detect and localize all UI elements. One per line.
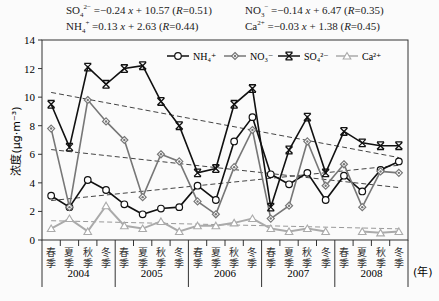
legend-label: SO₄²⁻ <box>304 51 329 62</box>
year-label: 2004 <box>68 267 91 279</box>
diamond-dot <box>398 172 400 174</box>
year-label: 2008 <box>360 267 383 279</box>
diamond-dot <box>196 200 198 202</box>
diamond-dot <box>288 205 290 207</box>
season-label-char: 夏 <box>138 247 148 258</box>
season-label-char: 秋 <box>83 246 93 258</box>
y-tick-label: 8 <box>30 120 36 132</box>
x-axis: 春季夏季秋季冬季春季夏季秋季冬季春季夏季秋季冬季春季夏季秋季冬季春季夏季秋季冬季… <box>42 240 408 287</box>
season-label-char: 春 <box>119 247 129 258</box>
season-label-char: 季 <box>339 258 349 269</box>
diamond-dot <box>270 217 272 219</box>
circle-marker <box>139 211 146 218</box>
circle-marker <box>194 182 201 189</box>
y-tick-label: 0 <box>30 234 36 246</box>
circle-marker <box>341 172 348 179</box>
circle-marker <box>231 138 238 145</box>
diamond-dot <box>50 127 52 129</box>
diamond-dot <box>306 140 308 142</box>
circle-marker <box>267 171 274 178</box>
x-marker <box>157 98 164 106</box>
legend: NH₄⁺NO₃⁻SO₄²⁻Ca²⁺ <box>167 51 381 62</box>
season-label-char: 冬 <box>174 246 184 258</box>
diamond-dot <box>160 153 162 155</box>
x-marker <box>103 80 110 88</box>
season-label-char: 春 <box>266 247 276 258</box>
y-tick-label: 12 <box>24 63 35 75</box>
season-label-char: 季 <box>266 258 276 269</box>
legend-label: Ca²⁺ <box>362 51 381 62</box>
circle-marker <box>304 170 311 177</box>
season-label-char: 冬 <box>101 246 111 258</box>
season-label-char: 春 <box>339 247 349 258</box>
legend-label: NH₄⁺ <box>193 51 216 62</box>
diamond-dot <box>141 196 143 198</box>
series-no3 <box>48 97 403 223</box>
circle-marker <box>176 204 183 211</box>
diamond-dot <box>324 185 326 187</box>
circle-marker <box>121 201 128 208</box>
season-label-char: 季 <box>46 258 56 269</box>
diamond-dot <box>343 163 345 165</box>
y-tick-label: 4 <box>30 177 36 189</box>
circle-marker <box>396 158 403 165</box>
plot-border <box>42 40 408 240</box>
season-label-char: 春 <box>193 247 203 258</box>
diamond-dot <box>379 170 381 172</box>
circle-marker <box>175 53 182 60</box>
triangle-marker <box>66 215 74 222</box>
x-marker <box>304 113 311 121</box>
x-marker <box>286 146 293 154</box>
season-label-char: 季 <box>119 258 129 269</box>
x-marker <box>176 122 183 130</box>
x-marker <box>48 100 55 108</box>
y-tick-label: 6 <box>30 148 36 160</box>
diamond-dot <box>68 206 70 208</box>
circle-marker <box>213 197 220 204</box>
season-label-char: 夏 <box>357 247 367 258</box>
season-label-char: 秋 <box>229 246 239 258</box>
diamond-dot <box>251 129 253 131</box>
circle-marker <box>48 192 55 199</box>
series-line <box>51 100 399 219</box>
season-label-char: 秋 <box>156 246 166 258</box>
season-label-char: 季 <box>193 258 203 269</box>
season-label-char: 夏 <box>64 247 74 258</box>
circle-marker <box>103 187 110 194</box>
season-label-char: 夏 <box>211 247 221 258</box>
diamond-dot <box>233 166 235 168</box>
season-label-char: 季 <box>394 258 404 269</box>
diamond-dot <box>178 160 180 162</box>
season-label-char: 季 <box>321 258 331 269</box>
x-marker <box>340 128 347 136</box>
y-axis: 02468101214 <box>24 34 42 246</box>
data-series <box>47 62 402 236</box>
circle-marker <box>84 177 91 184</box>
diamond-dot <box>105 120 107 122</box>
triangle-marker <box>102 202 110 209</box>
y-tick-label: 2 <box>30 205 36 217</box>
diamond-dot <box>87 99 89 101</box>
circle-marker <box>359 188 366 195</box>
triangle-marker <box>157 218 165 225</box>
y-axis-label: 浓度(μg·m⁻³) <box>9 107 23 176</box>
series-nh4 <box>48 114 402 218</box>
season-label-char: 春 <box>46 247 56 258</box>
season-label-char: 夏 <box>284 247 294 258</box>
circle-marker <box>322 197 329 204</box>
season-label-char: 秋 <box>302 246 312 258</box>
season-label-char: 秋 <box>376 246 386 258</box>
y-tick-label: 14 <box>24 34 36 46</box>
y-tick-label: 10 <box>24 91 36 103</box>
circle-marker <box>158 205 165 212</box>
diamond-dot <box>361 206 363 208</box>
season-label-char: 季 <box>101 258 111 269</box>
season-label-char: 冬 <box>247 246 257 258</box>
diamond-dot <box>234 55 236 57</box>
legend-label: NO₃⁻ <box>250 51 273 62</box>
line-chart: 02468101214 春季夏季秋季冬季春季夏季秋季冬季春季夏季秋季冬季春季夏季… <box>0 0 439 301</box>
trend-line <box>51 92 399 157</box>
year-label: 2007 <box>287 267 310 279</box>
x-axis-unit-label: (年) <box>413 265 433 279</box>
year-label: 2005 <box>141 267 164 279</box>
